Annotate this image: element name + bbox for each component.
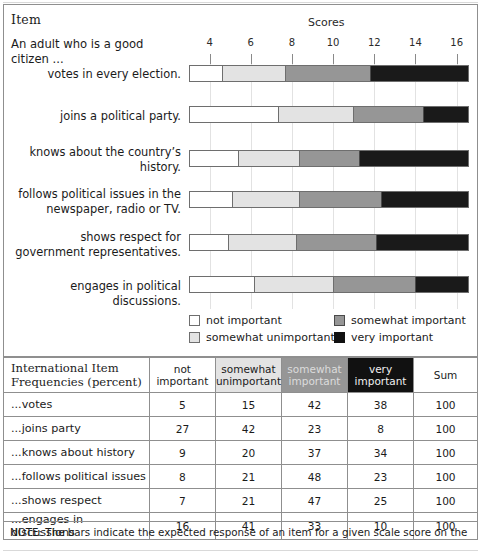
bar-segment-somewhat-important bbox=[300, 192, 382, 207]
gridline bbox=[292, 64, 293, 309]
bar-row-label-history: knows about the country’s history. bbox=[11, 145, 181, 174]
table-cell-sum: 100 bbox=[414, 465, 478, 489]
bar-segment-not-important bbox=[190, 277, 255, 292]
bar-segment-somewhat-unimportant bbox=[255, 277, 334, 292]
table-cell-not-important: 9 bbox=[149, 441, 215, 465]
bar-row-label-party: joins a political party. bbox=[11, 109, 181, 124]
table-cell-somewhat-unimportant: 21 bbox=[215, 465, 281, 489]
axis-tick-mark bbox=[415, 54, 416, 64]
bar-segment-very-important bbox=[360, 151, 469, 166]
axis-tick-mark bbox=[210, 54, 211, 64]
table-cell-very-important: 25 bbox=[348, 489, 414, 513]
bar-segment-somewhat-unimportant bbox=[223, 66, 286, 81]
bar-segment-somewhat-unimportant bbox=[239, 151, 300, 166]
table-cell-very-important: 8 bbox=[348, 417, 414, 441]
table-row-label: ...shows respect bbox=[4, 489, 150, 513]
table-header-not-important: not important bbox=[149, 358, 215, 393]
table-cell-very-important: 23 bbox=[348, 465, 414, 489]
bar-segment-not-important bbox=[190, 235, 229, 250]
table-cell-somewhat-unimportant: 21 bbox=[215, 489, 281, 513]
table-cell-somewhat-important: 23 bbox=[282, 417, 348, 441]
gridline bbox=[210, 64, 211, 309]
bottom-divider bbox=[3, 550, 478, 551]
axis-tick-label-16: 16 bbox=[450, 37, 463, 48]
legend-label-very-important: very important bbox=[351, 331, 433, 344]
bar-row-label-discussions: engages in political discussions. bbox=[11, 279, 181, 308]
stacked-bar bbox=[189, 276, 469, 293]
item-column-header: Item bbox=[11, 12, 41, 27]
axis-tick-label-4: 4 bbox=[206, 37, 212, 48]
table-row: ...knows about history 9 20 37 34 100 bbox=[4, 441, 478, 465]
table-header-row: International Item Frequencies (percent)… bbox=[4, 358, 478, 393]
legend-label-somewhat-unimportant: somewhat unimportant bbox=[206, 331, 335, 344]
table-row-label: ...joins party bbox=[4, 417, 150, 441]
axis-tick-label-12: 12 bbox=[368, 37, 381, 48]
axis-tick-mark bbox=[251, 54, 252, 64]
table-cell-not-important: 8 bbox=[149, 465, 215, 489]
bar-row-label-votes: votes in every election. bbox=[11, 67, 181, 82]
bar-segment-not-important bbox=[190, 107, 279, 122]
bar-segment-somewhat-important bbox=[300, 151, 360, 166]
figure-page: Item Scores An adult who is a good citiz… bbox=[0, 0, 481, 552]
table-header-sum: Sum bbox=[414, 358, 478, 393]
stacked-bar bbox=[189, 150, 469, 167]
table-cell-somewhat-unimportant: 42 bbox=[215, 417, 281, 441]
item-stem-text: An adult who is a good citizen ... bbox=[11, 37, 181, 67]
table-cell-sum: 100 bbox=[414, 441, 478, 465]
top-divider bbox=[3, 2, 478, 3]
bar-row-label-respect: shows respect for government representat… bbox=[11, 230, 181, 259]
plot-area: 46810121416 bbox=[189, 37, 469, 308]
axis-tick-mark bbox=[292, 54, 293, 64]
legend-label-not-important: not important bbox=[206, 314, 282, 327]
bar-segment-somewhat-important bbox=[354, 107, 424, 122]
table-cell-sum: 100 bbox=[414, 417, 478, 441]
bar-segment-somewhat-unimportant bbox=[229, 235, 297, 250]
scores-axis-title: Scores bbox=[308, 16, 345, 29]
note-divider bbox=[3, 521, 478, 522]
bar-row-label-issues: follows political issues in the newspape… bbox=[11, 187, 181, 216]
bar-row bbox=[189, 150, 469, 167]
bar-segment-very-important bbox=[424, 107, 469, 122]
legend-swatch-not-important-icon bbox=[189, 315, 200, 326]
table-cell-somewhat-unimportant: 20 bbox=[215, 441, 281, 465]
table-cell-very-important: 38 bbox=[348, 393, 414, 417]
bar-row bbox=[189, 191, 469, 208]
axis-tick-label-14: 14 bbox=[409, 37, 422, 48]
table-row-label: ...knows about history bbox=[4, 441, 150, 465]
bar-segment-somewhat-important bbox=[334, 277, 416, 292]
axis-tick-mark bbox=[457, 54, 458, 64]
bar-segment-not-important bbox=[190, 151, 239, 166]
axis-tick-mark bbox=[333, 54, 334, 64]
stacked-bar bbox=[189, 191, 469, 208]
bar-row bbox=[189, 65, 469, 82]
frequencies-table-wrap: International Item Frequencies (percent)… bbox=[3, 357, 478, 540]
gridline bbox=[415, 64, 416, 309]
legend-item-somewhat-important: somewhat important bbox=[334, 314, 466, 327]
table-cell-somewhat-important: 42 bbox=[282, 393, 348, 417]
table-cell-sum: 100 bbox=[414, 489, 478, 513]
bar-row bbox=[189, 106, 469, 123]
axis-tick-label-6: 6 bbox=[248, 37, 254, 48]
table-header-somewhat-important: somewhat important bbox=[282, 358, 348, 393]
legend-swatch-very-important-icon bbox=[334, 332, 345, 343]
table-row: ...shows respect 7 21 47 25 100 bbox=[4, 489, 478, 513]
table-title-cell: International Item Frequencies (percent) bbox=[4, 358, 150, 393]
bar-segment-very-important bbox=[377, 235, 469, 250]
bar-segment-very-important bbox=[416, 277, 469, 292]
bar-segment-not-important bbox=[190, 66, 223, 81]
table-cell-sum: 100 bbox=[414, 393, 478, 417]
table-cell-somewhat-important: 37 bbox=[282, 441, 348, 465]
table-cell-not-important: 5 bbox=[149, 393, 215, 417]
bar-row bbox=[189, 276, 469, 293]
table-row: ...joins party 27 42 23 8 100 bbox=[4, 417, 478, 441]
stacked-bar bbox=[189, 65, 469, 82]
stacked-bar bbox=[189, 234, 469, 251]
table-body: ...votes 5 15 42 38 100 ...joins party 2… bbox=[4, 393, 478, 540]
table-cell-very-important: 34 bbox=[348, 441, 414, 465]
gridline bbox=[374, 64, 375, 309]
bar-segment-somewhat-important bbox=[297, 235, 377, 250]
legend-swatch-somewhat-important-icon bbox=[334, 315, 345, 326]
bar-segment-very-important bbox=[371, 66, 469, 81]
table-cell-somewhat-unimportant: 15 bbox=[215, 393, 281, 417]
stacked-bar-chart: Item Scores An adult who is a good citiz… bbox=[3, 4, 478, 356]
